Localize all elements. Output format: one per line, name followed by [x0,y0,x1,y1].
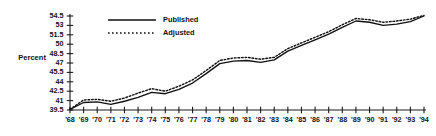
x-axis-tick-label: '71 [106,115,116,124]
line-chart: 39.54142.54445.54748.55051.55354.5 '68'6… [0,0,436,136]
x-axis-tick-label: '88 [337,115,347,124]
x-axis-tick-label: '86 [310,115,320,124]
x-axis-tick-label: '79 [215,115,225,124]
y-axis-tick-label: 48.5 [50,49,64,58]
x-axis-tick-label: '68 [65,115,75,124]
legend-label-published: Published [163,15,199,24]
series-layer [70,15,424,109]
x-axis-tick-label: '76 [174,115,184,124]
y-axis-tick-label: 54.5 [50,11,64,20]
x-axis-tick-label: '81 [242,115,252,124]
x-axis: '68'69'70'71'72'73'74'75'76'77'78'79'80'… [65,107,429,124]
y-axis-tick-label: 51.5 [50,30,64,39]
x-axis-tick-label: '70 [92,115,102,124]
x-axis-tick-label: '83 [269,115,279,124]
x-axis-tick-label: '80 [229,115,239,124]
x-axis-tick-label: '75 [160,115,170,124]
y-axis-title: Percent [18,53,46,62]
series-line-published [70,16,424,109]
x-axis-tick-label: '92 [392,115,402,124]
chart-legend: PublishedAdjusted [108,15,199,37]
y-axis-tick-label: 47 [56,58,64,67]
y-axis-tick-label: 39.5 [50,105,64,114]
x-axis-tick-label: '73 [133,115,143,124]
y-axis-tick-label: 41 [56,96,64,105]
x-axis-tick-label: '72 [120,115,130,124]
x-axis-tick-label: '78 [201,115,211,124]
x-axis-tick-label: '74 [147,115,157,124]
x-axis-tick-label: '87 [324,115,334,124]
x-axis-tick-label: '89 [351,115,361,124]
x-axis-tick-label: '77 [188,115,198,124]
y-axis-tick-label: 53 [56,20,64,29]
x-axis-tick-label: '69 [79,115,89,124]
y-axis-tick-label: 42.5 [50,86,64,95]
x-axis-tick-label: '90 [365,115,375,124]
y-axis: 39.54142.54445.54748.55051.55354.5 [50,11,74,114]
x-axis-tick-label: '94 [419,115,429,124]
series-line-adjusted [70,15,424,109]
x-axis-tick-label: '82 [256,115,266,124]
x-axis-tick-label: '93 [406,115,416,124]
x-axis-tick-label: '85 [297,115,307,124]
legend-label-adjusted: Adjusted [163,28,195,37]
y-axis-tick-label: 50 [56,39,64,48]
chart-container: 39.54142.54445.54748.55051.55354.5 '68'6… [0,0,436,136]
y-axis-tick-label: 44 [56,77,64,86]
x-axis-tick-label: '84 [283,115,293,124]
y-axis-tick-label: 45.5 [50,67,64,76]
x-axis-tick-label: '91 [378,115,388,124]
